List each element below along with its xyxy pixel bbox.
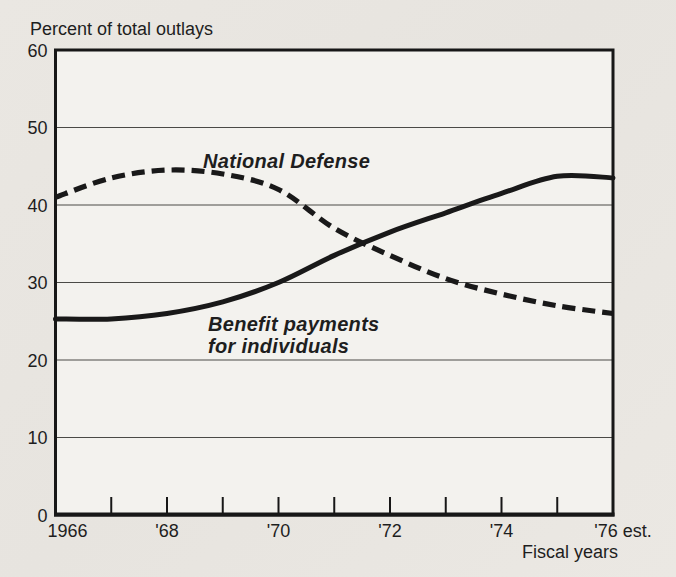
x-tick-label-1976: '76 est.: [594, 521, 651, 541]
y-tick-label-30: 30: [27, 273, 47, 293]
line-chart: Percent of total outlays 0102030405060 1…: [0, 0, 676, 577]
x-tick-label-1972: '72: [378, 521, 401, 541]
chart-title: Percent of total outlays: [30, 19, 213, 39]
national-defense-label: National Defense: [203, 150, 370, 172]
y-tick-label-10: 10: [27, 428, 47, 448]
benefit-payments-label-line2: for individuals: [208, 335, 349, 357]
x-tick-label-1974: '74: [490, 521, 513, 541]
y-tick-label-0: 0: [37, 506, 47, 526]
scanned-chart-page: Percent of total outlays 0102030405060 1…: [0, 0, 676, 577]
y-tick-label-50: 50: [27, 118, 47, 138]
y-axis-labels: 0102030405060: [27, 41, 47, 526]
benefit-payments-label-line1: Benefit payments: [208, 313, 380, 335]
x-tick-label-1966: 1966: [48, 521, 88, 541]
y-tick-label-20: 20: [27, 351, 47, 371]
y-tick-label-40: 40: [27, 196, 47, 216]
x-tick-label-1970: '70: [267, 521, 290, 541]
x-tick-label-1968: '68: [155, 521, 178, 541]
y-tick-label-60: 60: [27, 41, 47, 61]
x-axis-labels: 1966'68'70'72'74'76 est.: [48, 521, 652, 541]
x-axis-title: Fiscal years: [522, 542, 618, 562]
